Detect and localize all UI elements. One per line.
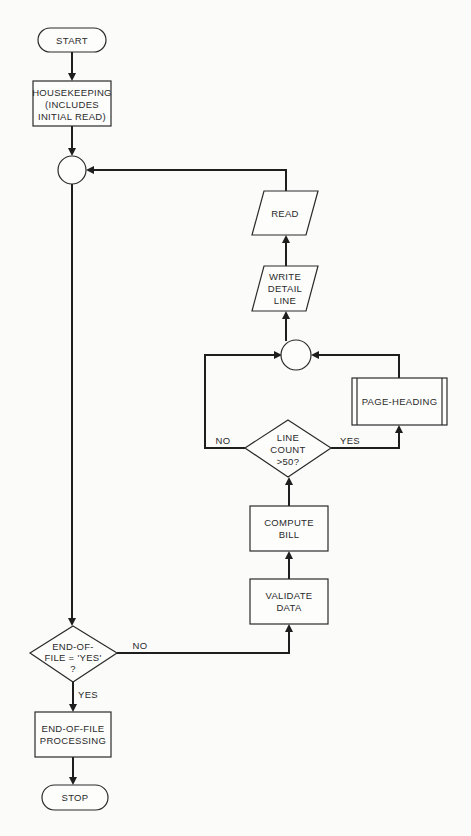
arrow-down-icon bbox=[68, 148, 76, 156]
arrow-down-icon bbox=[68, 618, 76, 626]
node-start: START bbox=[38, 28, 106, 52]
node-page-heading: PAGE-HEADING bbox=[352, 378, 447, 425]
node-label: READ bbox=[271, 208, 299, 219]
arrow-up-icon bbox=[282, 235, 290, 243]
node-label-line: BILL bbox=[279, 529, 300, 540]
node-label-line: END-OF- bbox=[52, 641, 94, 652]
node-label-line: END-OF-FILE bbox=[42, 723, 105, 734]
node-connector-main bbox=[58, 156, 86, 184]
node-label-line: FILE = 'YES' bbox=[44, 652, 101, 663]
arrow-left-icon bbox=[311, 351, 319, 359]
node-label-line: DATA bbox=[276, 602, 301, 613]
node-label-line: WRITE bbox=[269, 271, 301, 282]
node-stop: STOP bbox=[42, 785, 108, 810]
node-label-line: COMPUTE bbox=[264, 517, 314, 528]
node-label-line: COUNT bbox=[270, 444, 305, 455]
node-label: START bbox=[56, 35, 88, 46]
node-label-line: >50? bbox=[277, 456, 300, 467]
node-label-line: HOUSEKEEPING bbox=[32, 87, 112, 98]
edge-pageheading-connector bbox=[316, 355, 399, 378]
edge-label-no: NO bbox=[133, 640, 148, 651]
arrow-left-icon bbox=[86, 166, 94, 174]
node-validate-data: VALIDATE DATA bbox=[250, 579, 328, 624]
arrow-up-icon bbox=[282, 311, 290, 319]
node-label-line: ? bbox=[70, 663, 76, 674]
arrow-up-icon bbox=[285, 551, 293, 559]
node-label-line: PROCESSING bbox=[40, 735, 106, 746]
node-line-count: LINE COUNT >50? bbox=[245, 420, 331, 477]
node-label-line: (INCLUDES bbox=[45, 99, 99, 110]
arrow-up-icon bbox=[285, 477, 293, 485]
edge-label-yes: YES bbox=[78, 689, 98, 700]
node-label-line: DETAIL bbox=[268, 283, 302, 294]
node-eof-processing: END-OF-FILE PROCESSING bbox=[35, 712, 111, 757]
arrow-up-icon bbox=[395, 425, 403, 433]
node-housekeeping: HOUSEKEEPING (INCLUDES INITIAL READ) bbox=[32, 81, 112, 126]
arrow-down-icon bbox=[68, 73, 76, 81]
node-label: PAGE-HEADING bbox=[362, 396, 438, 407]
arrow-up-icon bbox=[285, 624, 293, 632]
edge-label-yes: YES bbox=[340, 435, 360, 446]
edge-read-connector bbox=[91, 170, 286, 191]
node-read: READ bbox=[252, 191, 318, 235]
node-write-detail: WRITE DETAIL LINE bbox=[252, 266, 318, 311]
node-compute-bill: COMPUTE BILL bbox=[250, 506, 328, 551]
node-label-line: LINE bbox=[277, 432, 299, 443]
flowchart: START HOUSEKEEPING (INCLUDES INITIAL REA… bbox=[0, 0, 471, 836]
node-label-line: INITIAL READ) bbox=[38, 111, 106, 122]
node-connector-inner bbox=[281, 340, 311, 370]
node-label: STOP bbox=[62, 792, 89, 803]
arrow-down-icon bbox=[69, 777, 77, 785]
arrow-down-icon bbox=[69, 704, 77, 712]
node-label-line: VALIDATE bbox=[266, 590, 313, 601]
node-eof-decision: END-OF- FILE = 'YES' ? bbox=[30, 626, 117, 682]
node-label-line: LINE bbox=[274, 295, 296, 306]
edge-label-no: NO bbox=[216, 435, 231, 446]
